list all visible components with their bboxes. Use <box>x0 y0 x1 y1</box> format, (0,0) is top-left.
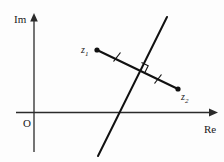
point-z1-label: z1 <box>80 44 88 58</box>
imaginary-axis <box>30 13 38 152</box>
point-z2: z2 <box>175 86 189 105</box>
imaginary-axis-arrow-icon <box>30 13 38 22</box>
point-z2-label-sub: 2 <box>185 97 189 105</box>
point-z1-label-sub: 1 <box>85 50 89 58</box>
real-axis <box>16 109 218 117</box>
point-z1-dot <box>94 47 99 52</box>
complex-plane-figure: Im Re O z1 z2 <box>0 0 224 162</box>
perpendicular-bisector-line <box>98 17 167 156</box>
point-z2-dot <box>175 86 180 91</box>
figure-canvas: Im Re O z1 z2 <box>0 0 224 162</box>
point-z1: z1 <box>80 44 100 58</box>
point-z2-label: z2 <box>180 91 189 105</box>
imaginary-axis-label: Im <box>14 13 27 25</box>
real-axis-label: Re <box>204 123 216 135</box>
real-axis-arrow-icon <box>209 109 218 117</box>
segment-z1-z2 <box>97 50 178 89</box>
origin-label: O <box>23 117 31 129</box>
